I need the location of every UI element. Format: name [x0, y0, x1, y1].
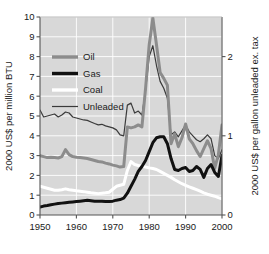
y-tick-label-right: 0 — [228, 209, 233, 220]
energy-price-line-chart: 0123456789100121950196019701980199020002… — [0, 0, 269, 254]
y-tick-label-left: 10 — [24, 11, 35, 22]
y-tick-label-left: 0 — [29, 209, 34, 220]
y-tick-label-left: 8 — [29, 51, 34, 62]
y-tick-label-left: 6 — [29, 91, 34, 102]
y-tick-label-left: 1 — [29, 190, 34, 201]
y-tick-label-left: 9 — [29, 31, 34, 42]
y-tick-label-left: 7 — [29, 71, 34, 82]
y-tick-label-left: 3 — [29, 150, 34, 161]
y-axis-label-right: 2000 US$ per gallon unleaded ex. tax — [249, 36, 260, 195]
y-tick-label-left: 5 — [29, 110, 34, 121]
legend-label-gas: Gas — [83, 68, 101, 79]
figure-container: 0123456789100121950196019701980199020002… — [0, 0, 269, 254]
x-tick-label: 1990 — [175, 221, 196, 232]
y-tick-label-left: 4 — [29, 130, 34, 141]
y-tick-label-right: 1 — [228, 130, 233, 141]
x-tick-label: 2000 — [211, 221, 232, 232]
legend-label-coal: Coal — [83, 84, 103, 95]
x-tick-label: 1960 — [66, 221, 87, 232]
legend-label-oil: Oil — [83, 51, 95, 62]
legend-label-unleaded: Unleaded — [83, 101, 124, 112]
y-tick-label-left: 2 — [29, 170, 34, 181]
y-axis-label-left: 2000 US$ per million BTU — [3, 61, 14, 171]
x-tick-label: 1970 — [102, 221, 123, 232]
x-tick-label: 1980 — [139, 221, 160, 232]
x-tick-label: 1950 — [29, 221, 50, 232]
y-tick-label-right: 2 — [228, 51, 233, 62]
